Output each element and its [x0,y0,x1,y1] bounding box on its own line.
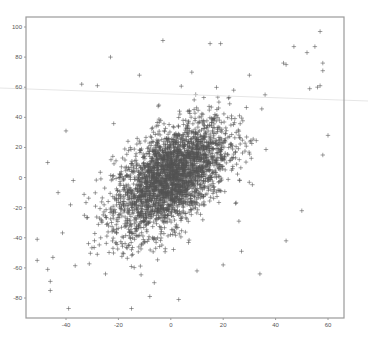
x-tick-label: 0 [169,322,173,328]
x-tick-label: 60 [325,322,332,328]
y-tick-label: 100 [12,24,23,30]
y-tick-label: -40 [13,235,22,241]
y-tick-label: 20 [15,144,22,150]
y-tick-label: 0 [19,175,23,181]
y-tick-label: -60 [13,265,22,271]
x-tick-label: -20 [114,322,123,328]
x-tick-label: 20 [220,322,227,328]
scatter-chart: -40-200204060 -80-60-40-20020406080100 [0,0,368,349]
y-tick-label: -80 [13,295,22,301]
y-tick-label: 60 [15,84,22,90]
y-tick-label: 80 [15,54,22,60]
x-axis: -40-200204060 [62,318,332,328]
x-tick-label: -40 [62,322,71,328]
y-tick-label: 40 [15,114,22,120]
y-axis: -80-60-40-20020406080100 [12,24,26,301]
y-tick-label: -20 [13,205,22,211]
x-tick-label: 40 [272,322,279,328]
